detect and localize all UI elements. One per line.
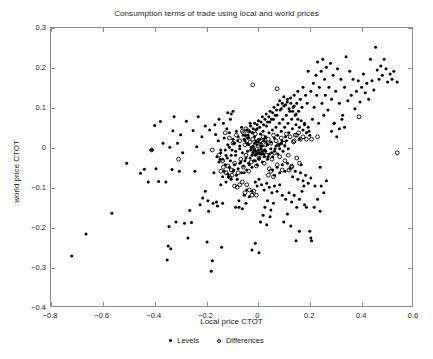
x-tick <box>258 302 259 306</box>
y-tick-label: −0.1 <box>20 183 46 192</box>
x-tick-top <box>362 28 363 32</box>
scatter-points-layer <box>51 28 412 306</box>
y-tick-label: −0.4 <box>20 303 46 312</box>
x-tick <box>362 302 363 306</box>
x-tick <box>207 302 208 306</box>
y-tick-right <box>408 268 412 269</box>
plot-area <box>50 27 413 307</box>
open-circle-marker-icon <box>217 339 221 343</box>
y-tick-right <box>408 28 412 29</box>
x-tick <box>103 302 104 306</box>
y-tick-label: 0 <box>20 143 46 152</box>
x-tick <box>310 302 311 306</box>
y-tick-label: 0.2 <box>20 63 46 72</box>
y-tick-right <box>408 188 412 189</box>
y-tick <box>51 68 55 69</box>
legend-label: Levels <box>177 336 199 345</box>
y-tick-right <box>408 148 412 149</box>
x-tick-top <box>103 28 104 32</box>
y-tick-label: −0.3 <box>20 263 46 272</box>
y-tick <box>51 108 55 109</box>
x-tick-top <box>310 28 311 32</box>
x-tick-top <box>258 28 259 32</box>
y-tick-right <box>408 68 412 69</box>
y-tick <box>51 268 55 269</box>
y-tick-right <box>408 108 412 109</box>
x-tick-top <box>207 28 208 32</box>
x-axis-label: Local price CTOT <box>50 317 413 326</box>
y-tick-label: 0.3 <box>20 23 46 32</box>
y-tick-right <box>408 228 412 229</box>
y-axis-label: world price CTOT <box>12 112 21 232</box>
x-tick-top <box>155 28 156 32</box>
series-levels <box>70 46 398 273</box>
chart-legend: LevelsDifferences <box>0 336 433 345</box>
page-title: Consumption terms of trade using local a… <box>0 9 433 18</box>
y-tick <box>51 188 55 189</box>
legend-item-differences: Differences <box>217 336 264 345</box>
y-tick <box>51 28 55 29</box>
figure-canvas: Consumption terms of trade using local a… <box>0 0 433 359</box>
filled-circle-marker-icon <box>169 339 172 342</box>
y-tick-label: 0.1 <box>20 103 46 112</box>
x-tick <box>155 302 156 306</box>
legend-label: Differences <box>226 336 264 345</box>
x-tick <box>51 302 52 306</box>
y-tick-label: −0.2 <box>20 223 46 232</box>
y-tick <box>51 148 55 149</box>
y-tick <box>51 228 55 229</box>
series-differences <box>150 83 399 197</box>
legend-item-levels: Levels <box>169 336 199 345</box>
